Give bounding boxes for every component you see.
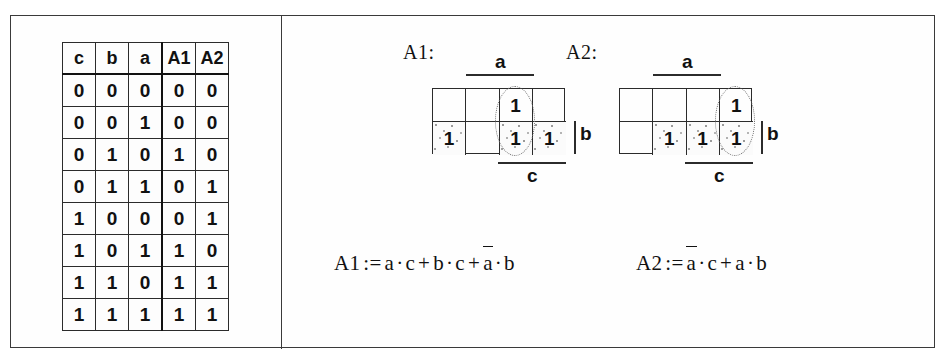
kmap-a1-cell-r0c1 [466,89,499,122]
table-row: 1 1 1 1 1 [63,299,229,331]
and-dot-icon: · [493,251,504,275]
cell-a: 0 [129,74,163,107]
cell-b: 1 [96,267,129,299]
table-row: 0 0 0 0 0 [63,74,229,107]
kmap-a1-cell-r0c2: 1 [500,89,533,122]
cell-c: 0 [63,107,96,139]
formula-a1-t2f1: b [504,251,515,275]
kmap-label-a2: A2: [566,41,598,64]
kmap-a2-cell-r1c2: 1 [687,122,720,155]
cell-a: 1 [129,107,163,139]
table-row: 1 0 0 0 1 [63,203,229,235]
th-c: c [63,43,96,75]
cell-a2: 0 [196,107,229,139]
kmap-a1-cell-r1c1 [466,122,499,155]
cell-b: 1 [96,171,129,203]
kmap-a1-grid: 1 1 1 1 [432,88,565,154]
kmap-a2-cell-r0c1 [653,89,686,122]
kmap-a2-cell-r1c0 [620,122,653,155]
cell-a: 1 [129,171,163,203]
kmap-a1-cell-r0c0 [433,89,466,122]
table-header-row: c b a A1 A2 [63,43,229,75]
cell-a1: 1 [162,299,196,331]
cell-a1: 1 [162,139,196,171]
kmap-a2-top-var-bar [653,74,721,76]
and-dot-icon: · [745,251,756,275]
cell-c: 1 [63,203,96,235]
and-dot-icon: · [444,251,455,275]
cell-c: 1 [63,267,96,299]
cell-a2: 1 [196,203,229,235]
formula-a2-lhs: A2 [636,251,662,275]
kmap-a2-bottom-var-bar [685,162,753,164]
kmap-a2-top-var-label: a [682,52,693,71]
cell-a: 0 [129,203,163,235]
formula-a1-t1f0: b [433,251,444,275]
kmap-a1-bottom-var-label: c [527,166,538,185]
cell-b: 0 [96,203,129,235]
formula-a1: A1:=a·c+b·c+a·b [334,251,515,276]
truth-table: c b a A1 A2 0 0 0 0 0 0 0 1 0 0 [62,42,229,331]
kmap-a2-right-var-label: b [767,124,779,143]
cell-a2: 1 [196,299,229,331]
cell-b: 0 [96,107,129,139]
table-row: 0 1 0 1 0 [63,139,229,171]
th-a: a [129,43,163,75]
table-row: 0 0 1 0 0 [63,107,229,139]
kmap-a1-top-var-label: a [495,52,506,71]
cell-c: 1 [63,299,96,331]
cell-a: 0 [129,267,163,299]
formula-a1-t1f1: c [455,251,465,275]
figure-canvas: c b a A1 A2 0 0 0 0 0 0 0 1 0 0 [0,0,941,364]
kmap-a2-cell-r0c3: 1 [720,89,753,122]
and-dot-icon: · [696,251,707,275]
kmap-panel: A1: A2: a 1 1 1 1 b [281,15,935,348]
kmap-a1-top-var-bar [466,74,534,76]
cell-a2: 1 [196,171,229,203]
cell-c: 0 [63,74,96,107]
kmap-a2-cell-r0c2 [687,89,720,122]
kmap-a1-cell-r1c3: 1 [533,122,566,155]
table-row: 1 1 0 1 1 [63,267,229,299]
cell-a1: 0 [162,203,196,235]
cell-a1: 0 [162,107,196,139]
cell-b: 1 [96,139,129,171]
th-a2: A2 [196,43,229,75]
cell-c: 0 [63,171,96,203]
kmap-a1-right-var-bar [574,121,576,154]
cell-b: 0 [96,235,129,267]
cell-a2: 0 [196,139,229,171]
formula-a2-t1f1: b [756,251,767,275]
formula-a1-lhs: A1 [334,251,360,275]
kmap-a2-grid: 1 1 1 1 [619,88,752,154]
cell-c: 0 [63,139,96,171]
cell-a2: 0 [196,74,229,107]
formula-a2-t0f0-negated: a [687,251,697,276]
cell-a1: 0 [162,74,196,107]
table-row: 1 0 1 1 0 [63,235,229,267]
table-row: 0 1 1 0 1 [63,171,229,203]
kmap-a2-cell-r0c0 [620,89,653,122]
or-plus-icon: + [465,251,483,275]
kmap-a1-cell-r1c0: 1 [433,122,466,155]
kmap-a1-bottom-var-bar [498,162,566,164]
cell-a1: 1 [162,267,196,299]
cell-b: 1 [96,299,129,331]
formula-a2-t1f0: a [735,251,745,275]
kmap-a1-right-var-label: b [580,124,592,143]
cell-a1: 1 [162,235,196,267]
cell-a: 1 [129,235,163,267]
formula-a1-t0f1: c [405,251,415,275]
formula-a2-assign: := [662,251,686,275]
th-b: b [96,43,129,75]
cell-a2: 1 [196,267,229,299]
cell-a: 0 [129,139,163,171]
formula-a1-assign: := [360,251,384,275]
or-plus-icon: + [415,251,433,275]
kmap-a1-cell-r1c2: 1 [500,122,533,155]
kmap-a1-cell-r0c3 [533,89,566,122]
formula-a1-t0f0: a [385,251,395,275]
cell-b: 0 [96,74,129,107]
formula-a1-t2f0-negated: a [483,251,493,276]
kmap-a2-bottom-var-label: c [714,166,725,185]
